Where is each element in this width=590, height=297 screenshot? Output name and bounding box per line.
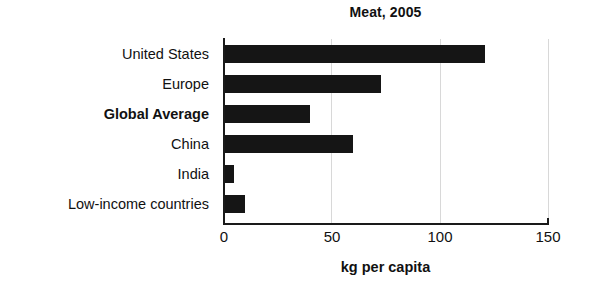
category-label-europe: Europe (0, 69, 216, 99)
gridline-50 (331, 39, 332, 223)
bar-low-income-countries (223, 195, 245, 213)
category-label-china: China (0, 129, 216, 159)
x-tick-label-50: 50 (324, 228, 341, 245)
chart-title: Meat, 2005 (223, 4, 548, 20)
x-axis-title: kg per capita (223, 259, 548, 275)
x-tick-label-150: 150 (535, 228, 560, 245)
bar-united-states (223, 45, 485, 63)
x-tick-label-0: 0 (220, 228, 228, 245)
bar-global-average (223, 105, 310, 123)
x-tick-label-100: 100 (427, 228, 452, 245)
y-axis-line (223, 38, 225, 224)
gridline-100 (440, 39, 441, 223)
category-label-global-average: Global Average (0, 99, 216, 129)
category-label-india: India (0, 159, 216, 189)
bar-chart-figure: Meat, 2005 United States Europe Global A… (0, 0, 590, 297)
category-label-low-income-countries: Low-income countries (0, 189, 216, 219)
x-axis-line (223, 223, 549, 225)
gridline-150 (548, 39, 549, 223)
bar-europe (223, 75, 381, 93)
category-label-united-states: United States (0, 39, 216, 69)
plot-area (223, 39, 548, 223)
bar-china (223, 135, 353, 153)
x-axis-end-tick (547, 218, 549, 225)
